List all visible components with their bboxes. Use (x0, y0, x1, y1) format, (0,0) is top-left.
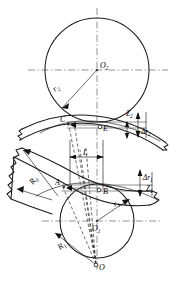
dr2-arrow-bottom (125, 133, 129, 139)
point-marker-E (98, 125, 102, 129)
label-radius-r1: r1 (111, 198, 122, 210)
label-center-O2: O2 (100, 61, 109, 71)
point-marker-O1 (96, 220, 98, 222)
label-dimension-delta-r2: Δr2 (140, 128, 151, 137)
ray-O-vertical-left (74, 122, 96, 264)
radius-R1-arrowhead (55, 233, 62, 239)
diagram-canvas: O2 O1 O C E A B r2 r1 R0 R1 (0, 0, 177, 288)
label-dimension-L: L (82, 148, 88, 157)
point-markers (63, 69, 102, 267)
radius-r2-line (62, 70, 97, 108)
label-center-O1: O1 (92, 224, 101, 234)
band-upper-left-torn-edge (18, 129, 22, 140)
label-point-E: E (102, 124, 108, 133)
ref-line-C-arrowhead (70, 122, 76, 128)
dr1-arrow-top (138, 169, 143, 176)
label-point-A: A (54, 178, 60, 187)
radius-R0-arrowhead-bottom (17, 186, 24, 193)
point-marker-B (97, 188, 101, 192)
point-marker-A (63, 186, 65, 188)
label-dimension-Z2: Z2 (126, 110, 133, 119)
point-marker-C (67, 123, 69, 125)
band-lower-left-torn-edge (7, 148, 22, 199)
point-marker-O-apex (94, 263, 98, 267)
label-apex-O: O (99, 263, 105, 272)
ray-O-aux (80, 150, 96, 264)
point-marker-O2 (96, 69, 98, 71)
technical-diagram: O2 O1 O C E A B r2 r1 R0 R1 (0, 0, 177, 288)
label-point-C: C (60, 115, 66, 124)
label-point-B: B (103, 187, 108, 196)
band-upper-right-torn-edge (163, 142, 168, 150)
radius-R0-line (23, 150, 58, 196)
ray-O-to-C (68, 121, 96, 264)
label-dimension-delta-r1: Δr1 (142, 174, 153, 183)
band-lower-bottom-edge (11, 199, 52, 214)
label-radius-r2: r2 (51, 83, 62, 95)
dr1-arrow-bottom (138, 190, 143, 197)
ray-O-aux-2 (86, 148, 96, 264)
Z2-arrow-top (136, 112, 141, 119)
label-radius-R0: R0 (27, 174, 40, 187)
